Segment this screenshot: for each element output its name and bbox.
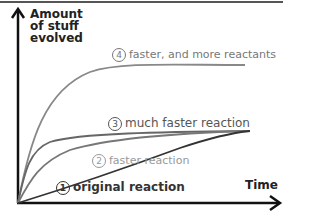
y-axis-label: Amount of stuff evolved bbox=[30, 8, 83, 44]
label-series-1: 1original reaction bbox=[56, 180, 185, 195]
circled-number-1-icon: 1 bbox=[56, 181, 70, 195]
x-axis-label: Time bbox=[245, 178, 278, 192]
circled-number-2-icon: 2 bbox=[92, 154, 106, 168]
y-axis-label-line3: evolved bbox=[30, 32, 83, 44]
label-series-2-text: faster reaction bbox=[109, 154, 189, 167]
label-series-4: 4faster, and more reactants bbox=[112, 48, 276, 62]
label-series-2: 2faster reaction bbox=[92, 154, 189, 168]
label-series-3-text: much faster reaction bbox=[125, 116, 250, 130]
label-series-3: 3much faster reaction bbox=[108, 116, 250, 131]
circled-number-3-icon: 3 bbox=[108, 117, 122, 131]
label-series-4-text: faster, and more reactants bbox=[129, 48, 276, 61]
circled-number-4-icon: 4 bbox=[112, 48, 126, 62]
label-series-1-text: original reaction bbox=[73, 180, 185, 194]
